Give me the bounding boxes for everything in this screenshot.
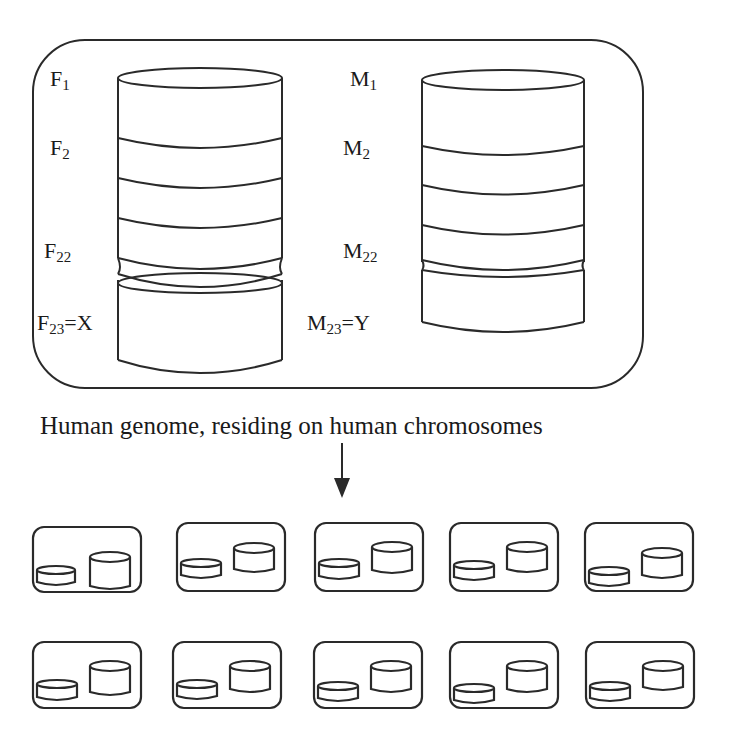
- male-chromosome-stack: [422, 70, 584, 332]
- female-chromosome-stack: [118, 68, 282, 373]
- label-m22: M22: [343, 240, 378, 262]
- label-m23-y: M23=Y: [307, 312, 370, 334]
- figure-caption: Human genome, residing on human chromoso…: [40, 412, 543, 440]
- genome-copy-1: [33, 527, 141, 592]
- label-m2: M2: [343, 137, 370, 159]
- genome-copy-9: [450, 642, 558, 708]
- genome-copy-4: [450, 523, 558, 591]
- label-f1: F1: [50, 68, 70, 90]
- genome-diagram: [0, 0, 733, 746]
- label-f2: F2: [50, 137, 70, 159]
- label-m1: M1: [350, 68, 377, 90]
- genome-copy-10: [586, 642, 694, 708]
- arrow-head: [334, 478, 350, 498]
- label-f22: F22: [44, 240, 71, 262]
- genome-copy-2: [177, 523, 285, 591]
- genome-copy-8: [314, 642, 422, 708]
- genome-copy-5: [585, 523, 693, 591]
- genome-copy-6: [33, 642, 141, 708]
- label-f23-x: F23=X: [37, 312, 93, 334]
- genome-copy-7: [173, 642, 281, 708]
- genome-copy-3: [315, 523, 423, 591]
